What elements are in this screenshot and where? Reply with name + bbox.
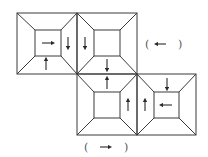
open-paren: ( [84,141,88,154]
answer-blank-right-side: ( ) [145,38,182,51]
close-paren: ) [124,141,128,154]
answer-blank-bottom: ( ) [84,141,128,154]
cube-net-diagram: ( ) ( ) [0,0,208,157]
close-paren: ) [178,38,182,51]
open-paren: ( [145,38,149,51]
